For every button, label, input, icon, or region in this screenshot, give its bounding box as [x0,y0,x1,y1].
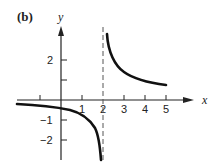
right-branch-curve [107,34,166,85]
x-axis-label: x [201,93,208,107]
left-branch-curve [17,104,101,160]
x-tick-5: 5 [163,103,169,115]
y-axis-arrow-icon [58,26,64,36]
y-axis-label: y [57,10,64,24]
panel-label: (b) [17,9,33,24]
y-tick-neg1: −1 [40,114,53,126]
x-axis-arrow-icon [183,97,194,103]
hyperbola-chart: (b) y x 1 2 3 4 5 2 −1 −2 [0,0,221,164]
x-tick-3: 3 [121,103,127,115]
y-tick-2: 2 [47,54,53,66]
y-tick-neg2: −2 [40,134,53,146]
x-tick-4: 4 [142,103,148,115]
